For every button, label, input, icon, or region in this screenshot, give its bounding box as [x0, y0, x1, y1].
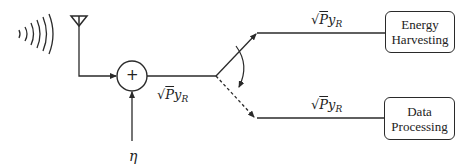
antenna-feed-line	[79, 26, 116, 76]
energy-block-line1: Energy	[401, 17, 438, 32]
combined-signal-label: √PyR	[157, 87, 188, 104]
power-splitting-diagram: + η √PyR √PyR √PyR Energy Harvesting Dat…	[0, 0, 469, 168]
adder-plus-symbol: +	[126, 66, 139, 84]
data-processing-block: Data Processing	[384, 97, 455, 140]
lower-switch-branch	[216, 76, 254, 117]
data-signal-label: √PyR	[311, 97, 342, 114]
data-block-line1: Data	[407, 104, 432, 119]
switch-arc-arrow	[236, 46, 244, 87]
antenna-icon	[71, 16, 87, 26]
energy-harvesting-block: Energy Harvesting	[385, 11, 455, 53]
wireless-signal-icon	[19, 14, 53, 54]
data-block-line2: Processing	[391, 119, 447, 134]
noise-label: η	[129, 148, 137, 164]
energy-signal-label: √PyR	[311, 12, 342, 29]
upper-switch-branch	[216, 34, 256, 76]
energy-block-line2: Harvesting	[391, 32, 448, 47]
